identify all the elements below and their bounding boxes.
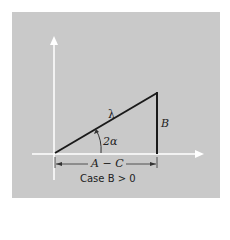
dim-right-arrow-icon	[150, 162, 156, 166]
label-b: B	[161, 117, 169, 130]
x-axis-arrow-icon	[195, 150, 204, 158]
label-lambda: λ	[108, 108, 115, 121]
y-axis-arrow-icon	[50, 36, 58, 45]
angle-arc	[96, 130, 101, 153]
label-a-minus-c: A − C	[91, 157, 124, 170]
label-angle: 2α	[103, 135, 117, 148]
caption: Case B > 0	[80, 173, 136, 184]
dim-left-arrow-icon	[56, 162, 62, 166]
y-axis	[50, 36, 58, 180]
